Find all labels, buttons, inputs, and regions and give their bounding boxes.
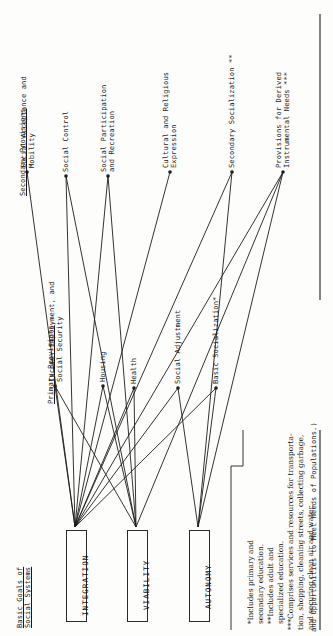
line-viability-social-participation	[108, 176, 136, 527]
line-integration-housing	[75, 386, 103, 527]
line-viability-derived-instrumental	[136, 172, 283, 527]
label-cultural-religious: Cultural and Religious Expression	[162, 72, 179, 168]
label-social-control: Social Control	[62, 111, 70, 172]
label-health: Health	[130, 358, 138, 384]
label-social-adjustment: Social Adjustment	[174, 310, 182, 384]
line-integration-secondary-socialization	[75, 172, 232, 527]
dot-social-participation	[106, 174, 110, 178]
line-viability-income	[55, 386, 136, 527]
goal-label-integration: INTEGRATION	[81, 555, 90, 616]
dot-social-adjustment	[176, 386, 180, 390]
label-housing: Housing	[99, 351, 107, 382]
footnote-4: specialized education.	[276, 541, 285, 624]
goal-label-viability: VIABILITY	[142, 560, 151, 610]
dot-health	[132, 386, 136, 390]
label-derived-instrumental: Provisions for Derived Instrumental Need…	[275, 72, 292, 168]
line-viability-housing	[103, 386, 136, 527]
dot-cultural-religious	[168, 170, 172, 174]
footnote-2: secondary education.	[256, 544, 265, 624]
goal-box-autonomy[interactable]: AUTONOMY	[189, 530, 210, 622]
footnote-7: and securing clean air and water.	[306, 505, 315, 631]
dot-basic-socialization	[214, 386, 218, 390]
label-social-acceptance: Social Acceptance and Mobility	[20, 76, 37, 168]
goal-box-integration[interactable]: INTEGRATION	[66, 530, 87, 622]
label-secondary-socialization: Secondary Socialization **	[228, 54, 236, 168]
column-header-goals: Basic Goals of Social Systems	[16, 567, 33, 628]
label-social-participation: Social Participation and Recreation	[100, 85, 117, 172]
dot-derived-instrumental	[281, 170, 285, 174]
diagram-canvas: and Opportunities to Meet Needs of Popul…	[0, 0, 333, 636]
line-autonomy-basic-socialization	[198, 388, 216, 527]
line-integration-cultural-religious	[75, 172, 170, 527]
footnote-bracket	[231, 430, 243, 630]
footnote-3: **Includes adult and	[266, 547, 275, 624]
footnote-5: ***Comprises services and resources for …	[286, 434, 295, 631]
dot-housing	[101, 384, 105, 388]
footnote-6: tion, shopping, cleaning streets, collec…	[296, 435, 305, 630]
label-income: Income, Employment, and Social Security	[48, 281, 65, 382]
label-basic-socialization: Basic Socialization*	[212, 297, 220, 384]
dot-social-control	[64, 174, 68, 178]
goal-label-autonomy: AUTONOMY	[204, 564, 213, 609]
footnote-1: *Includes primary and	[246, 540, 255, 624]
dot-secondary-socialization	[230, 170, 234, 174]
goal-box-viability[interactable]: VIABILITY	[127, 530, 148, 622]
